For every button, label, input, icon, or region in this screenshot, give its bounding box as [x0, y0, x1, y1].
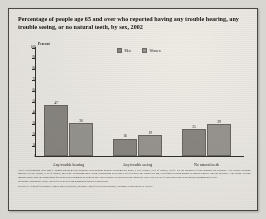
- y-tick-5: 50: [9, 100, 36, 104]
- y-tick-label: 0: [20, 155, 36, 159]
- bar-women-0: 30: [69, 123, 93, 156]
- bar-women-2: 29: [207, 124, 231, 156]
- y-tick-10: 0: [9, 155, 36, 159]
- y-tick-0: 100: [9, 46, 36, 50]
- footnote-note: NOTE: Respondents were asked "Which stat…: [18, 169, 251, 179]
- category-label-0: Any trouble hearing: [34, 163, 103, 167]
- y-axis-label: Percent: [38, 42, 50, 46]
- bar-value-label: 29: [208, 120, 230, 124]
- footnote-reference-population: Reference population: These data refer t…: [18, 180, 251, 183]
- bar-men-1: 16: [113, 139, 137, 156]
- y-tick-1: 90: [9, 56, 36, 60]
- x-axis-line: [35, 156, 244, 157]
- bar-men-2: 25: [182, 129, 206, 156]
- category-label-2: No natural teeth: [172, 163, 241, 167]
- scanned-page: Percentage of people age 65 and over who…: [8, 8, 258, 211]
- chart-plot-area: Percent Men Women 100 90 80 70: [9, 42, 258, 170]
- y-tick-7: 30: [9, 122, 36, 126]
- bar-value-label: 30: [70, 119, 92, 123]
- bar-value-label: 19: [139, 131, 161, 135]
- y-tick-8: 20: [9, 133, 36, 137]
- bar-value-label: 16: [114, 134, 136, 138]
- bar-men-0: 47: [44, 105, 68, 156]
- category-label-1: Any trouble seeing: [103, 163, 172, 167]
- y-tick-4: 60: [9, 89, 36, 93]
- bar-groups: 47 30 Any trouble hearing 16 19 Any trou…: [36, 47, 244, 156]
- bar-women-1: 19: [138, 135, 162, 156]
- y-tick-6: 40: [9, 111, 36, 115]
- bar-group-any-trouble-hearing: 47 30 Any trouble hearing: [44, 47, 93, 156]
- y-tick-3: 70: [9, 78, 36, 82]
- footnote-source: SOURCE: Centers for Disease Control and …: [18, 185, 251, 188]
- bar-group-no-natural-teeth: 25 29 No natural teeth: [182, 47, 231, 156]
- y-tick-9: 10: [9, 144, 36, 148]
- y-tick-2: 80: [9, 67, 36, 71]
- bar-value-label: 25: [183, 125, 205, 129]
- bar-group-any-trouble-seeing: 16 19 Any trouble seeing: [113, 47, 162, 156]
- chart-title: Percentage of people age 65 and over who…: [18, 16, 250, 31]
- bar-value-label: 47: [45, 101, 67, 105]
- chart-footnotes: NOTE: Respondents were asked "Which stat…: [18, 169, 251, 190]
